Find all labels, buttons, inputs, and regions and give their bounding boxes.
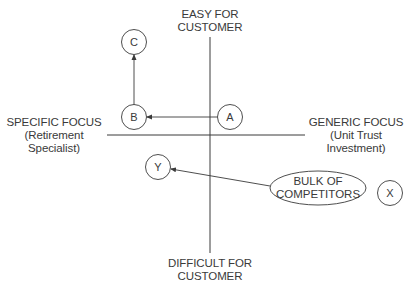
axis-label-top-line2: CUSTOMER bbox=[160, 21, 260, 34]
node-y: Y bbox=[146, 155, 171, 180]
axis-label-right-line2: (Unit Trust bbox=[306, 129, 406, 142]
axis-label-top: EASY FOR CUSTOMER bbox=[160, 8, 260, 34]
node-a-label: A bbox=[226, 111, 234, 123]
node-x: X bbox=[378, 181, 403, 206]
node-y-label: Y bbox=[154, 161, 162, 173]
node-a: A bbox=[218, 105, 243, 130]
node-b: B bbox=[122, 105, 147, 130]
competitors-ellipse: BULK OF COMPETITORS bbox=[270, 171, 366, 205]
axis-label-left-line2: (Retirement bbox=[4, 129, 104, 142]
node-c-label: C bbox=[130, 36, 138, 48]
axis-label-bottom-line2: CUSTOMER bbox=[155, 270, 265, 283]
competitors-line2: COMPETITORS bbox=[276, 188, 360, 200]
axis-label-right-line1: GENERIC FOCUS bbox=[306, 116, 406, 129]
axis-label-left: SPECIFIC FOCUS (Retirement Specialist) bbox=[4, 116, 104, 155]
axis-label-right: GENERIC FOCUS (Unit Trust Investment) bbox=[306, 116, 406, 155]
axis-label-right-line3: Investment) bbox=[306, 142, 406, 155]
axis-label-bottom: DIFFICULT FOR CUSTOMER bbox=[155, 257, 265, 283]
axis-label-left-line1: SPECIFIC FOCUS bbox=[4, 116, 104, 129]
arrow-competitors-to-y bbox=[171, 169, 270, 186]
node-x-label: X bbox=[386, 187, 394, 199]
competitors-line1: BULK OF bbox=[293, 175, 342, 187]
node-b-label: B bbox=[130, 111, 137, 123]
node-c: C bbox=[122, 30, 147, 55]
axis-label-bottom-line1: DIFFICULT FOR bbox=[155, 257, 265, 270]
axis-label-top-line1: EASY FOR bbox=[160, 8, 260, 21]
axis-label-left-line3: Specialist) bbox=[4, 142, 104, 155]
